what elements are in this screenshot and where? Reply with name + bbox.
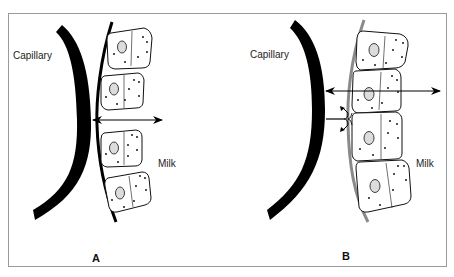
nucleus — [110, 142, 119, 154]
milk-label-a: Milk — [158, 158, 176, 169]
epithelial-cell — [352, 112, 402, 161]
nucleus — [369, 44, 379, 57]
nucleus — [370, 180, 380, 193]
diagram-canvas — [0, 0, 454, 277]
milk-label-b: Milk — [416, 158, 434, 169]
panel-letter-b: B — [342, 250, 350, 262]
panel-b — [267, 20, 440, 222]
capillary-label-a: Capillary — [13, 50, 52, 61]
epithelial-cell — [101, 73, 144, 110]
epithelial-cell — [356, 160, 411, 212]
epithelial-cell — [356, 31, 408, 70]
nucleus — [110, 83, 119, 95]
nucleus — [118, 41, 127, 53]
epithelial-cell — [105, 172, 151, 212]
diagram-figure: Capillary Milk A Capillary Milk B — [0, 0, 454, 277]
nucleus — [116, 187, 125, 199]
capillary-label-b: Capillary — [250, 49, 289, 60]
nucleus — [364, 132, 374, 145]
panel-letter-a: A — [92, 252, 100, 264]
nucleus — [364, 88, 374, 101]
epithelial-cell — [101, 130, 142, 167]
panel-a — [33, 22, 162, 222]
epithelial-cell — [107, 28, 152, 69]
